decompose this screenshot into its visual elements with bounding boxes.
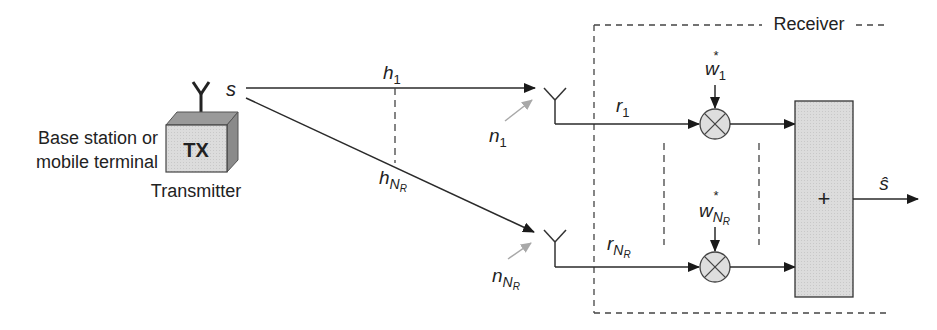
noise-arrow-top bbox=[505, 100, 532, 121]
receiver-title: Receiver bbox=[773, 14, 844, 34]
rx-antenna-top-icon bbox=[544, 88, 566, 124]
tx-box-label: TX bbox=[183, 139, 209, 161]
branch-1-conjugate-mark: * bbox=[713, 48, 718, 63]
tx-caption: Transmitter bbox=[151, 181, 241, 201]
channel-label-h1: h1 bbox=[383, 62, 401, 87]
tx-device-label-line1: Base station or bbox=[38, 128, 158, 148]
multiplier-NR-icon bbox=[700, 252, 730, 282]
branch-NR-conjugate-mark: * bbox=[713, 188, 718, 203]
branch-1-signal-label: r1 bbox=[616, 95, 630, 120]
multiplier-1-icon bbox=[700, 109, 730, 139]
rx-antenna-bottom-icon bbox=[544, 230, 566, 267]
noise-label-nNR: nNR bbox=[492, 265, 520, 292]
combiner-symbol: + bbox=[818, 186, 831, 211]
transmitter: TX Base station or mobile terminal Trans… bbox=[36, 78, 241, 201]
diversity-receiver-diagram: TX Base station or mobile terminal Trans… bbox=[0, 0, 937, 330]
noise-label-n1: n1 bbox=[489, 125, 507, 150]
branch-NR-weight-label: wNR bbox=[699, 200, 730, 227]
tx-antenna-icon bbox=[193, 82, 209, 116]
tx-device-label-line2: mobile terminal bbox=[36, 152, 158, 172]
branch-NR: rNR wNR * bbox=[555, 188, 795, 282]
tx-signal-label: s bbox=[226, 78, 236, 100]
combiner-block: + bbox=[795, 101, 853, 297]
branch-1: r1 w1 * bbox=[555, 48, 795, 139]
noise-arrow-bottom bbox=[508, 243, 531, 259]
channels: h1 hNR bbox=[246, 62, 535, 232]
branch-NR-signal-label: rNR bbox=[607, 233, 631, 260]
noise: n1 nNR bbox=[489, 100, 532, 292]
channel-path-bottom bbox=[246, 98, 534, 232]
output-label: ŝ bbox=[879, 173, 889, 194]
